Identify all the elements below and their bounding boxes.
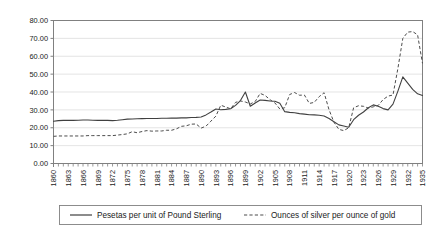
x-axis-tick-label: 1872 bbox=[108, 170, 117, 186]
x-axis-tick-label: 1866 bbox=[79, 170, 88, 186]
x-axis-tick-label: 1929 bbox=[389, 170, 398, 186]
y-axis-tick-label: 80.00 bbox=[30, 16, 49, 25]
x-axis-tick-label: 1860 bbox=[49, 170, 58, 186]
legend-label: Pesetas per unit of Pound Sterling bbox=[97, 211, 222, 220]
x-axis-tick-label: 1863 bbox=[64, 170, 73, 186]
legend-label: Ounces of silver per ounce of gold bbox=[271, 211, 396, 220]
y-axis-tick-label: 70.00 bbox=[30, 34, 49, 43]
line-chart: 0.0010.0020.0030.0040.0050.0060.0070.008… bbox=[0, 0, 441, 233]
x-axis-tick-label: 1887 bbox=[182, 170, 191, 186]
x-axis-tick-label: 1926 bbox=[374, 170, 383, 186]
y-axis-tick-label: 0.00 bbox=[34, 159, 48, 168]
x-axis-tick-label: 1917 bbox=[330, 170, 339, 186]
y-axis-tick-label: 60.00 bbox=[30, 52, 49, 61]
y-axis-tick-label: 20.00 bbox=[30, 123, 49, 132]
legend-group: Pesetas per unit of Pound SterlingOunces… bbox=[60, 206, 422, 225]
x-axis-tick-label: 1911 bbox=[300, 170, 309, 186]
x-axis-tick-label: 1905 bbox=[271, 170, 280, 186]
x-axis-tick-label: 1884 bbox=[167, 170, 176, 186]
x-axis-tick-label: 1932 bbox=[404, 170, 413, 186]
x-axis-tick-label: 1914 bbox=[315, 170, 324, 186]
chart-container: 0.0010.0020.0030.0040.0050.0060.0070.008… bbox=[0, 0, 441, 233]
y-axis-tick-label: 40.00 bbox=[30, 88, 49, 97]
x-axis-tick-label: 1881 bbox=[153, 170, 162, 186]
x-axis-tick-label: 1878 bbox=[138, 170, 147, 186]
y-axis-tick-label: 50.00 bbox=[30, 70, 49, 79]
x-axis-tick-label: 1899 bbox=[241, 170, 250, 186]
x-axis-tick-label: 1869 bbox=[94, 170, 103, 186]
x-axis-tick-label: 1908 bbox=[285, 170, 294, 186]
y-axis-tick-label: 10.00 bbox=[30, 141, 49, 150]
x-axis-tick-label: 1902 bbox=[256, 170, 265, 186]
x-axis-tick-label: 1896 bbox=[226, 170, 235, 186]
x-axis-tick-label: 1920 bbox=[345, 170, 354, 186]
x-axis-tick-label: 1935 bbox=[418, 170, 427, 186]
y-axis-tick-label: 30.00 bbox=[30, 106, 49, 115]
x-axis-tick-label: 1875 bbox=[123, 170, 132, 186]
x-axis-tick-label: 1890 bbox=[197, 170, 206, 186]
x-axis-tick-label: 1893 bbox=[212, 170, 221, 186]
x-axis-tick-label: 1923 bbox=[359, 170, 368, 186]
y-axis-labels-group: 0.0010.0020.0030.0040.0050.0060.0070.008… bbox=[30, 16, 49, 168]
chart-background bbox=[0, 0, 441, 233]
